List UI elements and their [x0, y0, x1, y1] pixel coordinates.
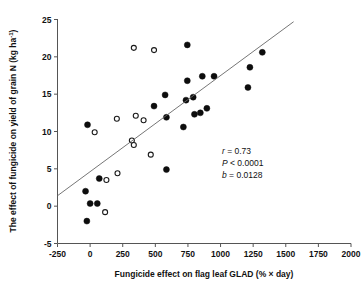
axes — [58, 19, 352, 244]
data-point-filled — [247, 64, 253, 70]
data-point-open — [115, 171, 120, 176]
data-point-filled — [96, 176, 102, 182]
y-axis-title-close: ) — [8, 29, 18, 32]
y-tick-label: 10 — [42, 127, 52, 137]
x-axis-title: Fungicide effect on flag leaf GLAD (% × … — [115, 269, 294, 279]
data-point-filled — [151, 103, 157, 109]
data-point-filled — [184, 42, 190, 48]
y-tick-label: 15 — [42, 89, 52, 99]
data-point-filled — [85, 122, 91, 128]
x-tick-label: 1750 — [309, 249, 328, 259]
data-point-open — [133, 113, 138, 118]
data-point-filled — [191, 111, 197, 117]
x-tick-label: 500 — [148, 249, 162, 259]
data-point-filled — [83, 188, 89, 194]
x-tick-label: 0 — [88, 249, 93, 259]
y-axis-title: The effect of fungicide on yield of grai… — [8, 29, 18, 232]
y-tick-label: 5 — [47, 164, 52, 174]
data-point-open — [104, 178, 109, 183]
x-tick-label: 750 — [181, 249, 195, 259]
annotation-r: r = 0.73 — [222, 146, 251, 156]
y-tick-label: 25 — [42, 15, 52, 25]
scatter-chart-figure: -50510152025 -25002505007501000125015001… — [0, 0, 362, 290]
y-axis-title-main: The effect of fungicide on yield of grai… — [8, 38, 18, 233]
y-tick-label: -5 — [44, 239, 52, 249]
data-point-filled — [259, 49, 265, 55]
y-tick-label: 0 — [47, 201, 52, 211]
annotation-b: b = 0.0128 — [222, 170, 263, 180]
x-tick-label: 2000 — [342, 249, 361, 259]
x-tick-label: 1250 — [244, 249, 263, 259]
data-point-filled — [180, 124, 186, 130]
x-axis-ticks: -250025050075010001250150017502000 — [49, 244, 361, 260]
data-point-filled — [94, 201, 100, 207]
data-point-open — [152, 48, 157, 53]
data-point-open — [131, 45, 136, 50]
data-points-layer — [83, 42, 266, 224]
statistics-annotation: r = 0.73 P < 0.0001 b = 0.0128 — [222, 146, 264, 180]
data-point-open — [114, 116, 119, 121]
x-tick-label: 1500 — [276, 249, 295, 259]
data-point-open — [131, 142, 136, 147]
chart-canvas: -50510152025 -25002505007501000125015001… — [0, 0, 362, 290]
y-tick-label: 20 — [42, 52, 52, 62]
data-point-filled — [184, 78, 190, 84]
data-point-open — [148, 152, 153, 157]
data-point-filled — [245, 84, 251, 90]
data-point-filled — [204, 105, 210, 111]
annotation-p: P < 0.0001 — [222, 158, 264, 168]
data-point-filled — [163, 167, 169, 173]
data-point-filled — [87, 201, 93, 207]
x-tick-label: 250 — [116, 249, 130, 259]
data-point-open — [103, 210, 108, 215]
data-point-open — [141, 118, 146, 123]
data-point-filled — [199, 73, 205, 79]
y-axis-ticks: -50510152025 — [42, 15, 57, 249]
x-tick-label: -250 — [49, 249, 66, 259]
data-point-filled — [162, 92, 168, 98]
data-point-filled — [197, 110, 203, 116]
data-point-open — [92, 130, 97, 135]
x-tick-label: 1000 — [211, 249, 230, 259]
data-point-filled — [84, 218, 90, 224]
